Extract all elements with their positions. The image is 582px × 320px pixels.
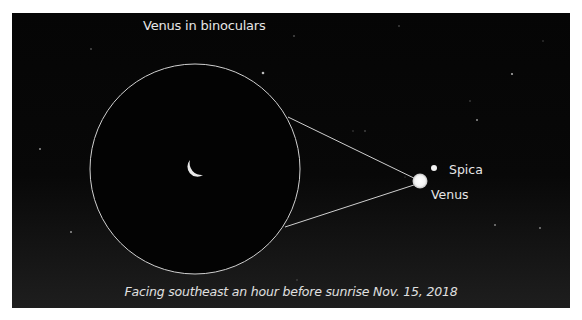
upper-pointer-line xyxy=(288,117,420,181)
diagram-title: Venus in binoculars xyxy=(143,18,266,33)
sky-chart-graphic xyxy=(12,13,570,308)
venus-label: Venus xyxy=(431,187,469,202)
venus-planet-icon xyxy=(413,174,428,189)
binocular-view-circle xyxy=(90,64,300,274)
spica-star-icon xyxy=(431,165,437,171)
lower-pointer-line xyxy=(285,183,420,227)
sky-chart-panel: Venus in binoculars Spica Venus Facing s… xyxy=(12,13,570,308)
caption: Facing southeast an hour before sunrise … xyxy=(12,284,570,299)
spica-label: Spica xyxy=(449,162,483,177)
